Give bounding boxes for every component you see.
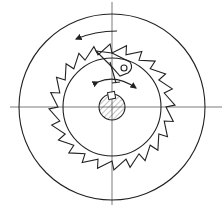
rotation-arrow-icon <box>76 31 117 39</box>
shaft-key <box>108 91 116 99</box>
ratchet-diagram <box>0 0 224 210</box>
swing-arrow-icon <box>98 79 136 88</box>
pawl-pivot-pin <box>121 65 127 71</box>
pawl-spring-tick <box>112 82 120 83</box>
